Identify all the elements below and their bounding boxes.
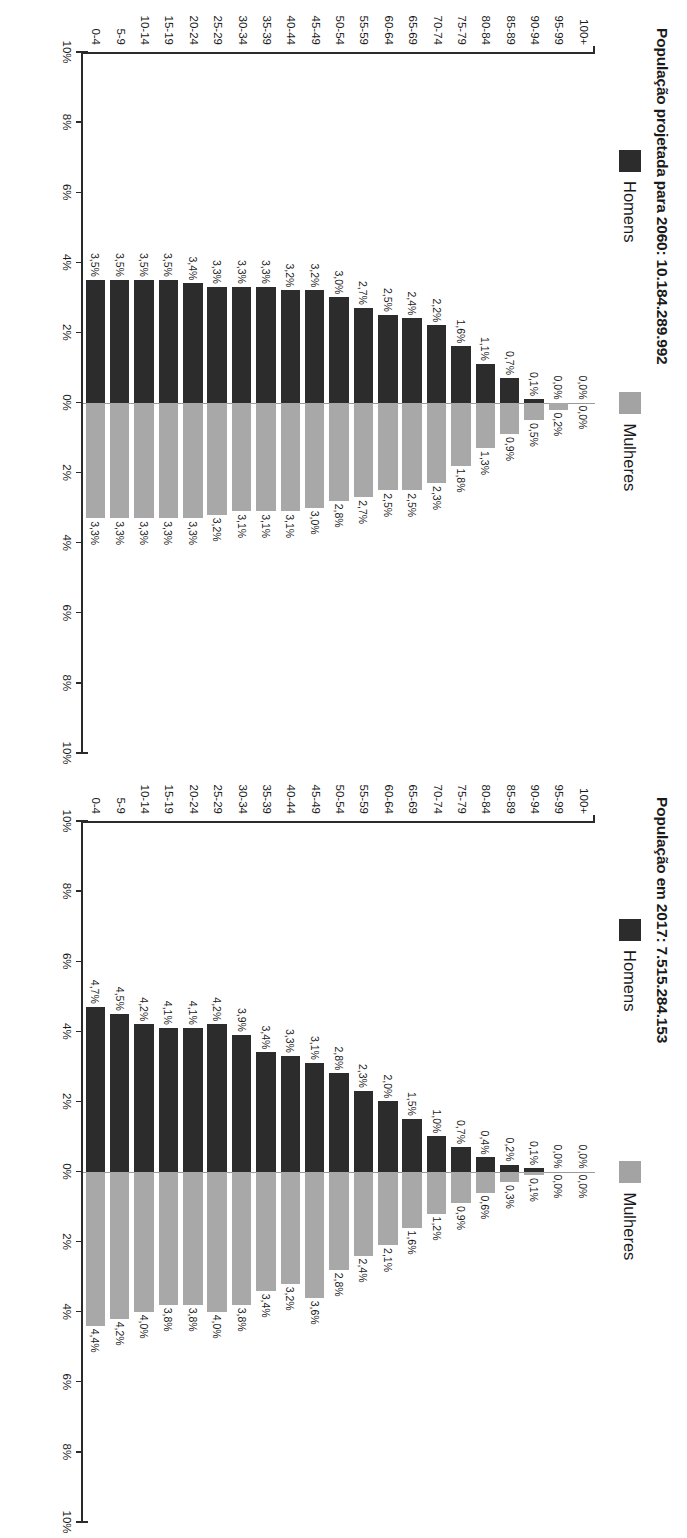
bar-women: 3,8% (232, 1172, 252, 1305)
axis-tick-label: 10% (61, 1510, 73, 1533)
bar-men: 3,5% (134, 280, 154, 403)
age-group-label: 5-9 (114, 28, 126, 45)
bar-women: 0,6% (476, 1172, 496, 1193)
bar-value-men: 4,2% (212, 997, 223, 1021)
bar-men: 3,3% (281, 1056, 301, 1172)
legend-item-homens: Homens (619, 919, 641, 1011)
pyramid-row: 45-493,2%3,0% (303, 52, 327, 753)
axis-end-cap (82, 51, 88, 53)
page-title: População em 2017: 7.515.284.153 (653, 797, 671, 1043)
bar-women: 3,8% (159, 1172, 179, 1305)
bar-value-women: 0,2% (553, 413, 564, 437)
age-group-label: 10-14 (138, 785, 150, 814)
bar-value-men: 4,2% (139, 997, 150, 1021)
bar-value-men: 4,7% (90, 980, 101, 1004)
bar-value-men: 3,1% (309, 1036, 320, 1060)
bar-men: 2,7% (354, 308, 374, 403)
pyramid-row: 100+0,0%0,0% (571, 52, 595, 753)
legend-item-homens: Homens (619, 150, 641, 242)
pyramid-row: 45-493,1%3,6% (303, 821, 327, 1522)
bar-value-men: 1,1% (480, 337, 491, 361)
bar-men: 3,5% (86, 280, 106, 403)
bar-men: 4,2% (134, 1024, 154, 1171)
bar-men: 3,4% (256, 1052, 276, 1171)
axis-tick-label: 8% (61, 114, 73, 131)
axis-tick (76, 332, 83, 333)
age-group-label: 55-59 (358, 16, 370, 45)
chart-panel-2017: População em 2017: 7.515.284.153 Homens … (0, 769, 687, 1538)
bar-women: 3,3% (134, 403, 154, 519)
age-group-label: 50-54 (333, 785, 345, 814)
bar-value-men: 2,4% (407, 291, 418, 315)
bar-value-men: 3,0% (334, 270, 345, 294)
bar-women: 1,6% (402, 1172, 422, 1228)
bar-value-women: 0,1% (529, 1178, 540, 1202)
axis-tick (76, 1451, 83, 1452)
pyramid-row: 5-94,5%4,2% (108, 821, 132, 1522)
axis-tick-label: 6% (61, 604, 73, 621)
bar-value-men: 4,5% (114, 987, 125, 1011)
bar-value-women: 3,8% (188, 1308, 199, 1332)
legend-label-mulheres: Mulheres (621, 1192, 640, 1260)
bar-value-men: 2,8% (334, 1046, 345, 1070)
bar-value-men: 0,0% (553, 376, 564, 400)
bar-women: 3,0% (305, 403, 325, 508)
bar-men: 4,1% (159, 1028, 179, 1172)
bar-value-men: 3,3% (285, 1029, 296, 1053)
pyramid-row: 90-940,1%0,5% (522, 52, 546, 753)
age-group-label: 75-79 (455, 785, 467, 814)
age-group-label: 15-19 (163, 16, 175, 45)
value-axis: 10%8%6%4%2%0%2%4%6%8%10% (49, 821, 83, 1522)
bar-value-women: 3,1% (236, 514, 247, 538)
bar-men: 1,6% (451, 346, 471, 402)
bar-women: 0,5% (524, 403, 544, 421)
bar-women: 3,2% (207, 403, 227, 515)
axis-tick (76, 1171, 83, 1172)
pyramid-row: 85-890,7%0,9% (498, 52, 522, 753)
bar-men: 3,3% (232, 287, 252, 403)
bar-men: 1,5% (402, 1119, 422, 1172)
age-group-label: 5-9 (114, 797, 126, 814)
legend-swatch-women-icon (619, 392, 641, 414)
bar-value-women: 3,3% (90, 521, 101, 545)
axis-tick (76, 1311, 83, 1312)
bar-value-men: 0,4% (480, 1131, 491, 1155)
bar-value-women: 3,3% (114, 521, 125, 545)
bar-women: 1,3% (476, 403, 496, 449)
age-group-label: 10-14 (138, 16, 150, 45)
axis-tick (76, 121, 83, 122)
pyramid-row: 25-293,3%3,2% (205, 52, 229, 753)
legend: Homens Mulheres (619, 150, 641, 491)
bar-men: 3,2% (281, 290, 301, 402)
bar-value-men: 3,5% (139, 253, 150, 277)
pyramid-row: 100+0,0%0,0% (571, 821, 595, 1522)
axis-tick (76, 472, 83, 473)
page-title: População projetada para 2060: 10.184.28… (653, 28, 671, 365)
axis-tick-label: 10% (61, 809, 73, 832)
axis-tick-label: 2% (61, 324, 73, 341)
bar-women: 1,2% (427, 1172, 447, 1214)
bar-rows: 100+0,0%0,0%95-990,0%0,0%90-940,1%0,1%85… (83, 821, 595, 1522)
age-group-label: 90-94 (528, 785, 540, 814)
bar-value-men: 2,0% (383, 1074, 394, 1098)
axis-tick (76, 890, 83, 891)
bar-men: 3,3% (207, 287, 227, 403)
bar-women: 3,3% (110, 403, 130, 519)
age-group-label: 70-74 (431, 16, 443, 45)
pyramid-row: 55-592,7%2,7% (351, 52, 375, 753)
bar-value-women: 0,0% (553, 1175, 564, 1199)
pyramid-row: 0-44,7%4,4% (83, 821, 107, 1522)
age-group-label: 25-29 (211, 785, 223, 814)
bar-women: 3,1% (281, 403, 301, 512)
bar-value-men: 2,7% (358, 281, 369, 305)
chart-panel-2060: População projetada para 2060: 10.184.28… (0, 0, 687, 769)
bar-women: 2,4% (354, 1172, 374, 1256)
pyramid-row: 25-294,2%4,0% (205, 821, 229, 1522)
age-group-label: 35-39 (260, 16, 272, 45)
bar-women: 3,6% (305, 1172, 325, 1298)
bar-men: 3,2% (305, 290, 325, 402)
bar-value-women: 3,2% (285, 1287, 296, 1311)
pyramid-row: 20-243,4%3,3% (181, 52, 205, 753)
bar-value-women: 0,3% (504, 1185, 515, 1209)
axis-tick (76, 1031, 83, 1032)
